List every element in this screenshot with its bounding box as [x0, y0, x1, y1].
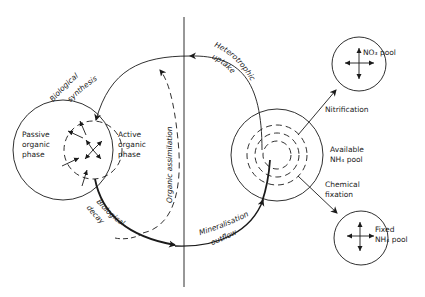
- diagram-svg: Passive organic phase Active organic pha…: [0, 0, 425, 297]
- diffusion-arrows-icon: [62, 121, 102, 186]
- biological-synthesis-arrow: [96, 56, 190, 120]
- active-phase-label: Active organic phase: [118, 130, 148, 159]
- organic-assimilation-source: [115, 235, 140, 239]
- fixed-nh4-label: Fixed NH₄ pool: [375, 225, 408, 244]
- fixed-nh4-pool-node: Fixed NH₄ pool: [334, 211, 408, 265]
- nitrogen-cycle-diagram: Passive organic phase Active organic pha…: [0, 0, 425, 297]
- no3-pool-label: NO₃ pool: [363, 48, 396, 57]
- organic-pool-node: Passive organic phase Active organic pha…: [13, 100, 148, 200]
- diffusion-cross-icon: [347, 222, 374, 251]
- available-nh4-label: Available NH₄ pool: [330, 145, 366, 164]
- organic-assimilation-label: Organic assimilation: [165, 126, 174, 203]
- nitrification-label: Nitrification: [325, 105, 369, 114]
- chemical-fixation-label: Chemical fixation: [325, 180, 362, 199]
- no3-pool-node: NO₃ pool: [332, 37, 396, 91]
- passive-phase-label: Passive organic phase: [22, 130, 52, 159]
